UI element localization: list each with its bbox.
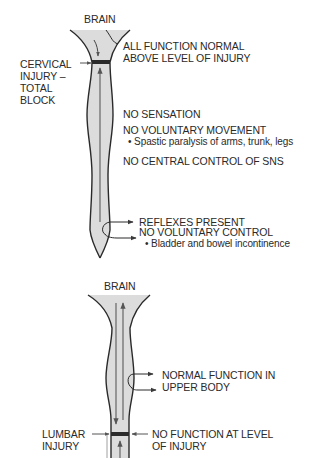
no-voluntary-control-label: NO VOLUNTARY CONTROL [139, 226, 273, 238]
cervical-injury-label-line4: BLOCK [20, 94, 55, 106]
no-voluntary-movement-label: NO VOLUNTARY MOVEMENT [123, 124, 266, 136]
lumbar-injury-label-line2: INJURY [42, 440, 79, 452]
cervical-cord [70, 30, 136, 258]
above-injury-label-line2: ABOVE LEVEL OF INJURY [123, 52, 250, 64]
lumbar-injury-label-line1: LUMBAR [42, 428, 85, 440]
upper-body-in-arrow [132, 388, 156, 390]
spastic-paralysis-detail: Spastic paralysis of arms, trunk, legs [128, 136, 293, 148]
spinal-injury-diagram: BRAIN ALL FUNCTION NORMAL ABOVE LEVEL OF… [0, 0, 326, 458]
cervical-injury-label-line1: CERVICAL [20, 58, 72, 70]
brain-label-bottom: BRAIN [104, 280, 136, 292]
no-function-level-label-line2: OF INJURY [152, 440, 206, 452]
cervical-injury-label-line2: INJURY – [20, 70, 66, 82]
lumbar-cord [88, 295, 156, 458]
reflex-in-arrow [106, 235, 136, 238]
lumbar-injury-block [111, 432, 129, 436]
no-sns-control-label: NO CENTRAL CONTROL OF SNS [123, 155, 284, 167]
normal-upper-body-label-line2: UPPER BODY [162, 381, 230, 393]
cervical-injury-label-line3: TOTAL [20, 82, 52, 94]
above-injury-label-line1: ALL FUNCTION NORMAL [123, 40, 244, 52]
no-function-level-label-line1: NO FUNCTION AT LEVEL [152, 428, 273, 440]
cervical-injury-block [92, 60, 110, 64]
incontinence-detail: Bladder and bowel incontinence [145, 238, 290, 250]
no-sensation-label: NO SENSATION [123, 108, 200, 120]
normal-upper-body-label-line1: NORMAL FUNCTION IN [162, 369, 275, 381]
brain-label-top: BRAIN [84, 13, 116, 25]
